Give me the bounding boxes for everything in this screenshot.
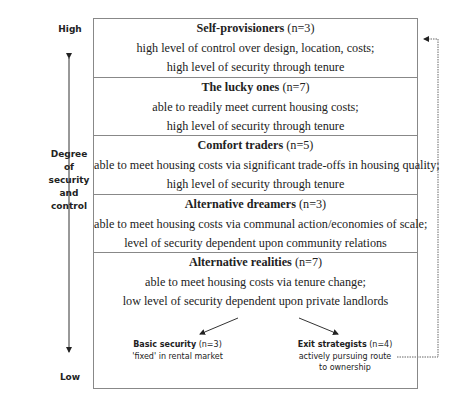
- category-count: (n=7): [282, 80, 309, 94]
- subgroup-count: (n=3): [199, 340, 222, 349]
- category-description: able to meet housing costs via communal …: [94, 215, 417, 235]
- subgroup-description: to ownership: [290, 362, 400, 374]
- category-name: Self-provisioners: [196, 21, 284, 35]
- category-description: high level of security through tenure: [94, 117, 417, 137]
- category-count: (n=7): [295, 255, 322, 269]
- category-description: low level of security dependent upon pri…: [94, 292, 417, 312]
- category-description: able to meet housing costs via tenure ch…: [94, 273, 417, 293]
- category-name: Alternative dreamers: [185, 197, 296, 211]
- subgroup-name: Basic security: [133, 340, 196, 349]
- category-comfort-traders: Comfort traders (n=5) able to meet housi…: [94, 136, 417, 195]
- subgroup-name: Exit strategists: [298, 340, 367, 349]
- subgroup-description: 'fixed' in rental market: [120, 351, 235, 363]
- category-name: Comfort traders: [198, 138, 284, 152]
- subgroup-count: (n=4): [369, 340, 392, 349]
- category-description: high level of control over design, locat…: [94, 39, 417, 59]
- typology-box: Self-provisioners (n=3) high level of co…: [93, 18, 418, 389]
- category-name: Alternative realities: [189, 255, 292, 269]
- category-count: (n=3): [299, 197, 326, 211]
- subgroup-basic-security: Basic security (n=3) 'fixed' in rental m…: [120, 339, 235, 362]
- subgroup-exit-strategists: Exit strategists (n=4) actively pursuing…: [290, 339, 400, 374]
- category-description: able to meet housing costs via significa…: [94, 156, 417, 176]
- category-self-provisioners: Self-provisioners (n=3) high level of co…: [94, 19, 417, 78]
- category-alternative-dreamers: Alternative dreamers (n=3) able to meet …: [94, 195, 417, 253]
- category-count: (n=3): [287, 21, 314, 35]
- category-lucky-ones: The lucky ones (n=7) able to readily mee…: [94, 78, 417, 136]
- category-description: high level of security through tenure: [94, 175, 417, 195]
- category-count: (n=5): [286, 138, 313, 152]
- category-description: level of security dependent upon communi…: [94, 234, 417, 254]
- category-description: high level of security through tenure: [94, 58, 417, 78]
- subgroup-description: actively pursuing route: [290, 351, 400, 363]
- category-description: able to readily meet current housing cos…: [94, 98, 417, 118]
- category-name: The lucky ones: [201, 80, 279, 94]
